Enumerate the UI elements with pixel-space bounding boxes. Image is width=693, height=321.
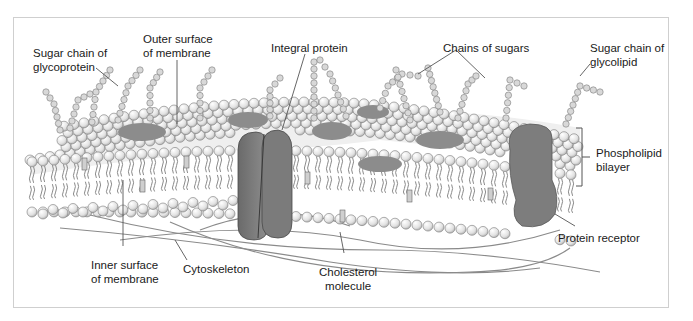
label-inner-surface: Inner surface of membrane: [91, 259, 159, 286]
label-integral-protein: Integral protein: [271, 42, 348, 56]
label-cholesterol-molecule: Cholesterol molecule: [319, 266, 377, 293]
label-sugar-chain-glycolipid: Sugar chain of glycolipid: [590, 42, 664, 69]
label-cytoskeleton: Cytoskeleton: [183, 263, 249, 277]
label-phospholipid-bilayer: Phospholipid bilayer: [596, 147, 662, 174]
integral-protein: [238, 130, 292, 240]
label-sugar-chain-glycoprotein: Sugar chain of glycoprotein: [33, 47, 107, 74]
label-outer-surface: Outer surface of membrane: [143, 33, 213, 60]
label-protein-receptor: Protein receptor: [558, 232, 640, 246]
protein-receptor: [509, 124, 557, 227]
label-chains-of-sugars: Chains of sugars: [443, 42, 529, 56]
